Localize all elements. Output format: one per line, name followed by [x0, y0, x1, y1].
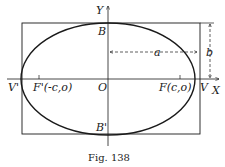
- vertex-right-label: V: [200, 81, 209, 94]
- focus-right-label: F(c,o): [158, 81, 192, 94]
- x-axis-label: X: [211, 84, 221, 97]
- bounding-rectangle: [22, 23, 200, 134]
- focus-left-label: F'(-c,o): [32, 81, 72, 94]
- vertex-left-label: V': [8, 81, 19, 94]
- covertex-bottom-label: B': [95, 121, 107, 134]
- ellipse-diagram: Y X O B B' V' V F'(-c,o) F(c,o) a b Fig.…: [0, 0, 225, 167]
- figure-caption: Fig. 138: [88, 152, 130, 163]
- y-axis-label: Y: [96, 4, 105, 17]
- origin-label: O: [98, 81, 107, 94]
- covertex-top-label: B: [97, 25, 106, 38]
- semi-major-label: a: [154, 46, 161, 59]
- semi-minor-label: b: [206, 46, 213, 59]
